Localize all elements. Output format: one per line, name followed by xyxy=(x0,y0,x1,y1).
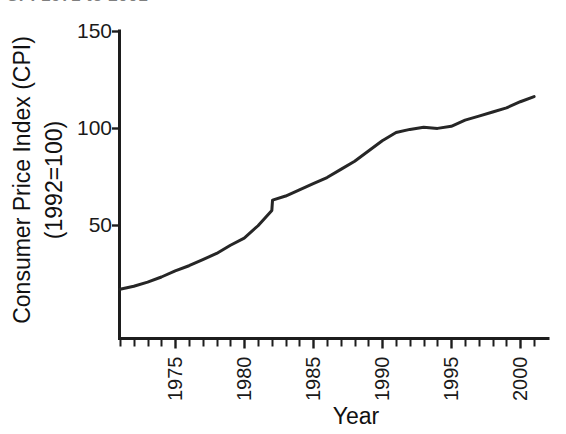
cpi-data-line xyxy=(120,97,534,290)
cpi-line-chart: Consumer Price Index (CPI) (1992=100) 15… xyxy=(0,0,566,434)
y-axis-title-line2: (1992=100) xyxy=(41,121,67,239)
x-tick-label: 1975 xyxy=(164,357,186,402)
figure-container: CPI 1971 to 2001 Consumer Price Index (C… xyxy=(0,0,566,434)
y-axis-title-line1: Consumer Price Index (CPI) xyxy=(9,36,35,324)
x-tick-label: 2000 xyxy=(509,357,531,402)
axis-spines xyxy=(120,31,549,339)
x-axis-title: Year xyxy=(333,403,380,429)
y-tick-label: 50 xyxy=(89,213,112,236)
y-tick-label: 100 xyxy=(77,116,112,139)
y-tick-labels: 150 100 50 xyxy=(77,19,112,236)
x-tick-label: 1995 xyxy=(440,357,462,402)
y-tick-label: 150 xyxy=(77,19,112,42)
y-axis-title: Consumer Price Index (CPI) (1992=100) xyxy=(9,36,67,324)
x-tick-label: 1990 xyxy=(371,357,393,402)
y-axis-ticks xyxy=(112,32,119,226)
x-tick-label: 1985 xyxy=(302,357,324,402)
x-tick-label: 1980 xyxy=(233,357,255,402)
x-axis-tick-labels: 197519801985199019952000 xyxy=(164,357,531,402)
